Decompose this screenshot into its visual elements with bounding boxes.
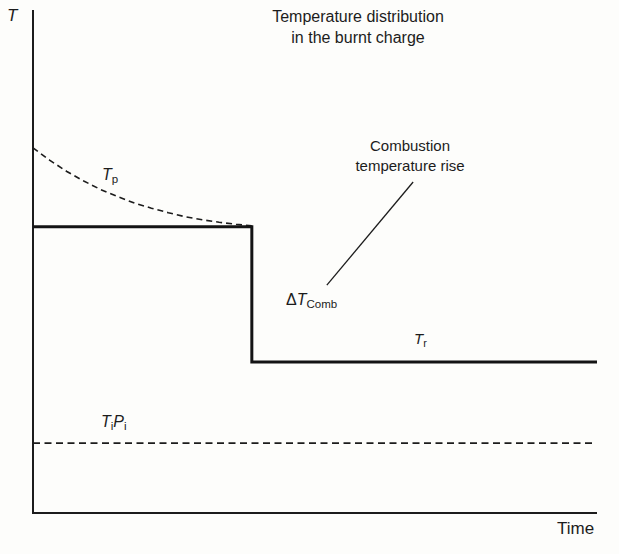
chart-title: Temperature distribution in the burnt ch… — [233, 6, 483, 48]
annotation-line2: temperature rise — [330, 156, 490, 176]
delta-base: T — [297, 291, 307, 308]
tr-base: T — [414, 330, 423, 347]
series-Tp — [33, 148, 252, 226]
chart-title-line2: in the burnt charge — [233, 27, 483, 48]
figure-temperature-distribution: Temperature distribution in the burnt ch… — [0, 0, 619, 554]
plot-canvas — [0, 0, 619, 554]
y-axis-label: T — [7, 6, 17, 26]
curve-label-tp: Tp — [102, 166, 118, 185]
annotation-combustion-rise: Combustion temperature rise — [330, 136, 490, 176]
annotation-line1: Combustion — [330, 136, 490, 156]
tipi-t: T — [101, 413, 111, 430]
curve-label-tipi: TiPi — [101, 413, 127, 432]
tr-sub: r — [423, 337, 427, 349]
delta-sub: Comb — [306, 298, 337, 310]
tp-base: T — [102, 166, 112, 183]
tipi-p-sub: i — [124, 420, 127, 432]
x-axis-label: Time — [557, 519, 594, 539]
label-delta-t-comb: ΔTComb — [286, 291, 337, 310]
tipi-p: P — [113, 413, 124, 430]
tp-sub: p — [112, 173, 118, 185]
curve-label-tr: Tr — [414, 330, 427, 349]
annotation-leader-line-0 — [327, 182, 413, 285]
chart-title-line1: Temperature distribution — [233, 6, 483, 27]
delta-symbol: Δ — [286, 291, 297, 308]
